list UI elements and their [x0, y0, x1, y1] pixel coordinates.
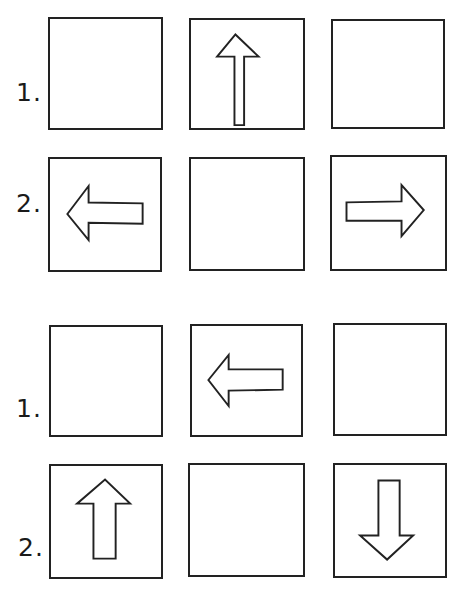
- box-a1-1-empty: [48, 17, 163, 130]
- box-a2-2-empty: [189, 157, 305, 271]
- box-b2-1: [49, 464, 163, 579]
- box-b2-3: [333, 463, 447, 578]
- arrow-left-icon: [50, 159, 160, 270]
- arrow-up-icon: [191, 20, 303, 128]
- box-b1-3-empty: [333, 323, 447, 436]
- row-label-b1: 1.: [16, 394, 42, 423]
- box-a2-1: [48, 157, 162, 272]
- box-b2-2-empty: [188, 463, 305, 577]
- arrow-down-icon: [335, 465, 445, 576]
- row-label-a1: 1.: [16, 78, 42, 107]
- arrow-right-icon: [332, 157, 445, 269]
- box-b1-1-empty: [49, 325, 163, 437]
- box-a1-2: [189, 18, 305, 130]
- box-b1-2: [190, 324, 303, 437]
- row-label-a2: 2.: [16, 189, 42, 218]
- box-a2-3: [330, 155, 447, 271]
- arrow-left-icon: [192, 326, 301, 435]
- box-a1-3-empty: [331, 19, 445, 129]
- row-label-b2: 2.: [18, 533, 44, 562]
- arrow-up-icon: [51, 466, 161, 577]
